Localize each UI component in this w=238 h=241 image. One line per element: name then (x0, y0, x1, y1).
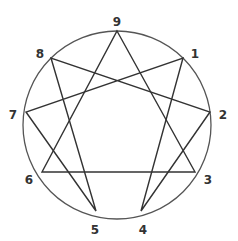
point-label-8: 8 (36, 47, 44, 61)
point-label-1: 1 (191, 47, 199, 61)
point-label-2: 2 (219, 108, 227, 122)
point-label-4: 4 (139, 223, 147, 237)
point-label-7: 7 (9, 108, 17, 122)
enneagram-diagram: 912345678 (0, 0, 238, 241)
triangle-lines (42, 31, 195, 172)
point-label-5: 5 (91, 223, 99, 237)
point-label-3: 3 (204, 173, 212, 187)
point-label-9: 9 (113, 15, 121, 29)
hexad-lines (26, 58, 210, 211)
point-label-6: 6 (25, 173, 33, 187)
